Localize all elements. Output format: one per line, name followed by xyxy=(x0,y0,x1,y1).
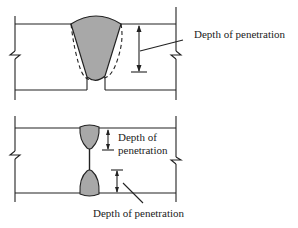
weld-bead xyxy=(71,16,121,80)
lower-depth-label: Depth of penetration xyxy=(93,207,185,219)
upper-depth-label-line2: penetration xyxy=(118,144,168,156)
right-break-zigzag xyxy=(171,51,181,59)
arrow-up-icon xyxy=(137,25,142,32)
top-weld-panel xyxy=(10,7,183,100)
arrow-down-icon-3 xyxy=(115,187,119,193)
arrow-up-icon-2 xyxy=(106,129,110,135)
upper-depth-label-line1: Depth of xyxy=(118,131,157,143)
bottom-weld-panel xyxy=(10,116,181,203)
lower-weld-bead xyxy=(80,170,99,196)
arrow-up-icon-3 xyxy=(115,170,119,176)
arrow-down-icon-2 xyxy=(106,144,110,150)
arrow-down-icon xyxy=(137,65,142,72)
left-break-zigzag-2 xyxy=(10,151,20,159)
upper-weld-bead xyxy=(80,125,99,149)
weld-penetration-diagram: Depth of penetration Depth of penetratio… xyxy=(0,0,298,228)
left-break-zigzag-top xyxy=(10,51,20,59)
top-depth-label: Depth of penetration xyxy=(194,28,286,40)
right-break-zigzag-2 xyxy=(171,157,181,164)
